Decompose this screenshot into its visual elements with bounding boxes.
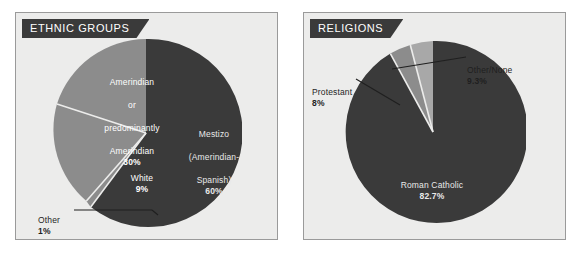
slice-value-other-none: 9.3%	[467, 76, 551, 88]
panel-religions: RELIGIONS	[303, 12, 566, 240]
slice-label-amerindian-line1: Amerindian	[110, 77, 155, 87]
slice-label-mestizo: Mestizo (Amerindian- Spanish) 60%	[170, 117, 258, 209]
slice-label-mestizo-line1: Mestizo	[199, 129, 229, 139]
panel-header-ethnic-groups: ETHNIC GROUPS	[22, 19, 149, 38]
slice-value-roman-catholic: 82.7%	[377, 191, 487, 203]
slice-label-mestizo-line2: (Amerindian-	[189, 152, 239, 162]
leader-line-other-none	[392, 55, 470, 73]
slice-label-amerindian-line3: predominantly	[104, 123, 159, 133]
slice-label-roman-catholic: Roman Catholic 82.7%	[377, 168, 487, 214]
slice-value-other: 1%	[38, 226, 86, 238]
slice-value-protestant: 8%	[312, 98, 388, 110]
slice-label-white: White 9%	[114, 161, 170, 207]
slice-label-amerindian-line2: or	[128, 100, 136, 110]
slice-label-amerindian-line4: Amerindian	[110, 146, 155, 156]
slice-value-white: 9%	[114, 184, 170, 196]
slice-label-other-none: Other/None 9.3%	[467, 53, 551, 99]
slice-label-protestant-line1: Protestant	[312, 87, 352, 97]
panel-ethnic-groups: ETHNIC GROUPS	[15, 12, 278, 240]
slice-label-other: Other 1%	[38, 203, 86, 249]
slice-value-mestizo: 60%	[170, 186, 258, 198]
slice-label-roman-catholic-line1: Roman Catholic	[401, 180, 464, 190]
infographic-sheet: ETHNIC GROUPS	[0, 0, 581, 262]
pie-chart-religions: Protestant 8% Other/None 9.3% Roman Cath…	[304, 13, 565, 239]
slice-label-white-line1: White	[131, 173, 153, 183]
pie-chart-ethnic-groups: Amerindian or predominantly Amerindian 3…	[16, 13, 277, 239]
slice-label-protestant: Protestant 8%	[312, 75, 388, 121]
panel-title-ethnic-groups: ETHNIC GROUPS	[30, 23, 129, 34]
slice-label-mestizo-line3: Spanish)	[197, 175, 232, 185]
panel-title-religions: RELIGIONS	[318, 23, 383, 34]
slice-label-other-line1: Other	[38, 215, 60, 225]
panel-header-religions: RELIGIONS	[310, 19, 403, 38]
slice-label-other-none-line1: Other/None	[467, 65, 512, 75]
